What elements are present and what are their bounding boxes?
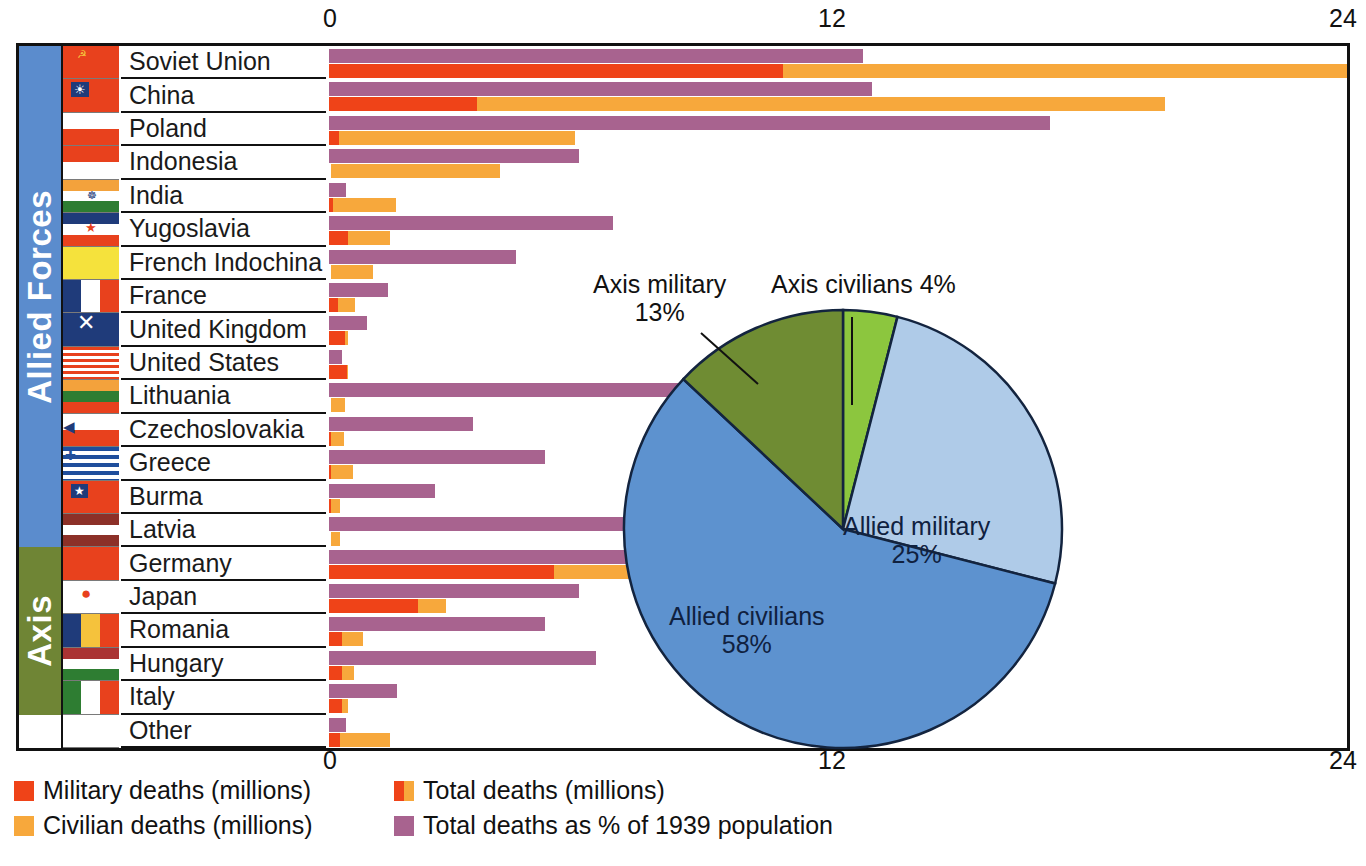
bar-pct-of-population <box>329 49 863 63</box>
pie-label-axis-civilians-text: Axis civilians 4% <box>771 270 956 298</box>
legend-label: Military deaths (millions) <box>43 776 311 805</box>
pie-label-allied-civilians-value: 58% <box>669 630 825 658</box>
pie-label-allied-civilians-text: Allied civilians <box>669 602 825 630</box>
flag-united-states <box>63 347 119 380</box>
axis-tick-top-24: 24 <box>1329 4 1357 33</box>
bar-civilian-deaths <box>331 499 340 513</box>
country-label-french-indochina[interactable]: French Indochina <box>121 247 326 280</box>
bar-civilian-deaths <box>331 532 341 546</box>
bar-military-deaths <box>329 97 477 111</box>
bar-military-deaths <box>329 632 342 646</box>
bar-civilian-deaths <box>348 231 390 245</box>
country-label-japan[interactable]: Japan <box>121 581 326 614</box>
bar-pct-of-population <box>329 651 596 665</box>
pie-label-allied-military-value: 25% <box>843 540 990 568</box>
country-label-united-kingdom[interactable]: United Kingdom <box>121 313 326 346</box>
country-label-china[interactable]: China <box>121 79 326 112</box>
bar-row-indonesia <box>329 146 1347 179</box>
legend: Military deaths (millions) Total deaths … <box>14 776 1354 846</box>
bar-pct-of-population <box>329 149 579 163</box>
bar-civilian-deaths <box>342 632 363 646</box>
bar-pct-of-population <box>329 82 872 96</box>
flag-japan-emblem-icon: ● <box>81 585 91 602</box>
flag-italy <box>63 681 119 714</box>
bar-military-deaths <box>329 365 347 379</box>
group-band-other <box>19 715 63 748</box>
bar-civilian-deaths <box>342 666 355 680</box>
bar-pct-of-population <box>329 484 435 498</box>
legend-row-2: Civilian deaths (millions) Total deaths … <box>14 811 1354 840</box>
group-band-axis: Axis <box>19 547 63 714</box>
bar-row-india <box>329 180 1347 213</box>
country-label-hungary[interactable]: Hungary <box>121 648 326 681</box>
square-swatch-icon <box>14 781 34 801</box>
bar-pct-of-population <box>329 417 473 431</box>
flag-soviet-union-emblem-icon: ☭ <box>77 49 87 60</box>
country-label-burma[interactable]: Burma <box>121 481 326 514</box>
bar-military-deaths <box>329 298 338 312</box>
bar-military-deaths <box>329 565 554 579</box>
country-label-italy[interactable]: Italy <box>121 681 326 714</box>
bar-civilian-deaths <box>331 398 346 412</box>
flag-czechoslovakia: ◀ <box>63 414 119 447</box>
flag-yugoslavia: ★ <box>63 213 119 246</box>
flag-germany <box>63 547 119 580</box>
country-label-lithuania[interactable]: Lithuania <box>121 380 326 413</box>
axis-tick-bottom-12: 12 <box>818 746 846 775</box>
group-band-allied-label: Allied Forces <box>21 190 59 404</box>
flag-yugoslavia-emblem-icon: ★ <box>85 221 97 234</box>
bar-military-deaths <box>329 131 339 145</box>
flag-india-emblem-icon: ☸ <box>87 190 97 201</box>
square-swatch-icon <box>394 816 414 836</box>
country-label-germany[interactable]: Germany <box>121 547 326 580</box>
country-label-latvia[interactable]: Latvia <box>121 514 326 547</box>
legend-item-total-deaths: Total deaths (millions) <box>394 776 665 805</box>
bar-pct-of-population <box>329 584 579 598</box>
bar-civilian-deaths <box>331 265 373 279</box>
flag-french-indochina <box>63 247 119 280</box>
country-label-romania[interactable]: Romania <box>121 614 326 647</box>
axis-tick-bottom-0: 0 <box>323 746 337 775</box>
bar-civilian-deaths <box>477 97 1164 111</box>
flag-czechoslovakia-emblem-icon: ◀ <box>63 419 75 434</box>
bar-pct-of-population <box>329 617 545 631</box>
legend-row-1: Military deaths (millions) Total deaths … <box>14 776 1354 805</box>
flag-lithuania <box>63 380 119 413</box>
bar-military-deaths <box>329 666 342 680</box>
country-label-czechoslovakia[interactable]: Czechoslovakia <box>121 414 326 447</box>
bar-row-yugoslavia <box>329 213 1347 246</box>
legend-label: Total deaths (millions) <box>423 776 665 805</box>
bar-military-deaths <box>329 231 348 245</box>
bar-civilian-deaths <box>333 198 397 212</box>
flag-france <box>63 280 119 313</box>
country-label-united-states[interactable]: United States <box>121 347 326 380</box>
bar-pct-of-population <box>329 684 397 698</box>
legend-label: Total deaths as % of 1939 population <box>423 811 833 840</box>
bar-civilian-deaths <box>331 164 501 178</box>
flag-poland <box>63 113 119 146</box>
pie-label-allied-military: Allied military25% <box>843 512 990 568</box>
bar-military-deaths <box>329 733 340 747</box>
bar-military-deaths <box>329 599 418 613</box>
bar-chart-panel: Allied Forces Axis ☭☀☸★✕◀✚★● Soviet Unio… <box>16 43 1350 751</box>
country-label-greece[interactable]: Greece <box>121 447 326 480</box>
axis-tick-top-0: 0 <box>323 4 337 33</box>
bar-civilian-deaths <box>338 298 355 312</box>
country-label-france[interactable]: France <box>121 280 326 313</box>
bar-pct-of-population <box>329 183 346 197</box>
country-label-poland[interactable]: Poland <box>121 113 326 146</box>
flag-soviet-union: ☭ <box>63 46 119 79</box>
country-label-yugoslavia[interactable]: Yugoslavia <box>121 213 326 246</box>
bar-civilian-deaths <box>331 465 353 479</box>
flag-greece: ✚ <box>63 447 119 480</box>
bar-pct-of-population <box>329 283 388 297</box>
bar-civilian-deaths <box>345 331 348 345</box>
country-label-indonesia[interactable]: Indonesia <box>121 146 326 179</box>
pie-chart: Axis military13%Axis civilians 4%Allied … <box>621 307 1066 752</box>
country-label-other[interactable]: Other <box>121 715 326 748</box>
bar-pct-of-population <box>329 116 1050 130</box>
flag-romania <box>63 614 119 647</box>
country-label-india[interactable]: India <box>121 180 326 213</box>
pie-label-axis-military-text: Axis military <box>593 270 726 298</box>
country-label-soviet-union[interactable]: Soviet Union <box>121 46 326 79</box>
